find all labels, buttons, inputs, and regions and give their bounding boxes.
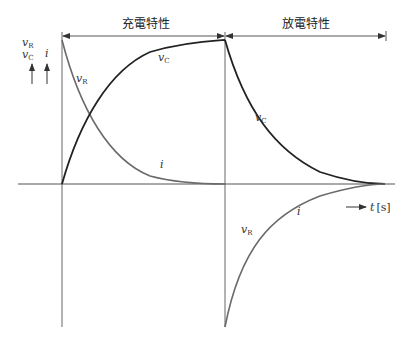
label-charge-i: i [160,158,164,171]
label-charge-vc: vC [158,51,170,65]
discharge-span-arrow [226,31,386,41]
discharge-characteristic-title: 放電特性 [282,16,330,31]
charge-characteristic-title: 充電特性 [122,16,170,31]
label-discharge-i: i [297,205,301,218]
y-label-i: i [45,47,49,60]
discharge-vc-curve [225,40,385,184]
discharge-vr-i-curve [225,184,385,327]
rc-charge-discharge-diagram: 充電特性 放電特性 t[s] vR vC i vR vC i vC vR i [0,0,410,351]
charge-vc-curve [62,40,225,184]
y-label-vc: vC [22,48,34,62]
label-discharge-vc: vC [255,111,267,125]
label-charge-vr: vR [76,72,88,86]
label-discharge-vr: vR [241,223,253,237]
charge-vr-i-curve [62,40,225,184]
time-axis-label: t[s] [370,201,391,214]
diagram-canvas: 充電特性 放電特性 t[s] vR vC i vR vC i vC vR i [0,0,410,351]
